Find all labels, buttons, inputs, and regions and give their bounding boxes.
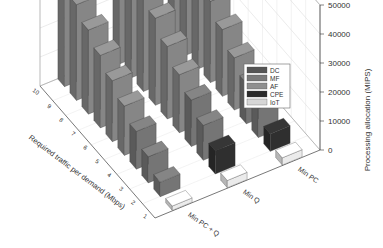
legend-item: AF bbox=[247, 83, 278, 90]
legend-item: DC bbox=[247, 67, 280, 74]
legend-item: CPE bbox=[247, 91, 284, 98]
z-tick-label: 0 bbox=[328, 146, 333, 155]
bar-chart-3d: 10987654321Required traffic per demand (… bbox=[0, 0, 383, 248]
svg-text:DC: DC bbox=[270, 67, 280, 74]
z-tick-label: 10000 bbox=[328, 117, 351, 126]
x-tick-label: 7 bbox=[70, 130, 77, 137]
x-tick-label: 3 bbox=[118, 185, 125, 192]
svg-text:IoT: IoT bbox=[270, 99, 279, 106]
svg-text:MF: MF bbox=[270, 75, 279, 82]
legend-item: IoT bbox=[247, 99, 279, 106]
z-tick-label: 50000 bbox=[328, 1, 351, 10]
legend-item: MF bbox=[247, 75, 279, 82]
legend: DCMFAFCPEIoT bbox=[244, 64, 290, 108]
category-label: Min PC + Q bbox=[186, 211, 221, 239]
svg-text:AF: AF bbox=[270, 83, 278, 90]
z-tick-label: 30000 bbox=[328, 59, 351, 68]
x-tick-label: 5 bbox=[94, 158, 101, 165]
svg-text:CPE: CPE bbox=[270, 91, 284, 98]
x-tick-label: 10 bbox=[32, 87, 41, 96]
x-tick-label: 4 bbox=[106, 172, 113, 179]
z-axis-title: Processing allocation (MIPS) bbox=[363, 68, 372, 171]
category-label: Min PC bbox=[297, 165, 320, 184]
x-tick-label: 1 bbox=[142, 213, 149, 220]
x-tick-label: 8 bbox=[58, 117, 65, 124]
z-tick-label: 20000 bbox=[328, 88, 351, 97]
z-tick-label: 40000 bbox=[328, 30, 351, 39]
category-label: Min Q bbox=[241, 188, 261, 206]
x-tick-label: 2 bbox=[130, 199, 137, 206]
x-tick-label: 6 bbox=[82, 144, 89, 151]
x-tick-label: 9 bbox=[46, 103, 53, 110]
